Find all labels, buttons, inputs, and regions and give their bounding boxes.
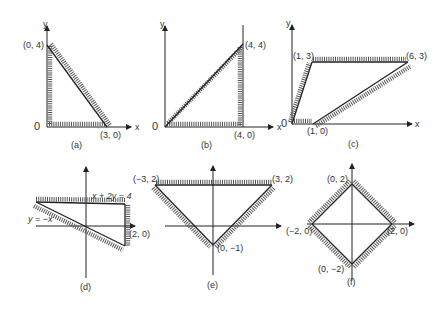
hatch-edge — [51, 44, 110, 125]
panel-a: y x 0 (0, 4) (3, 0) (a) — [23, 19, 140, 150]
vertex-label: (−3, 2) — [133, 174, 159, 184]
line-label: y = −x — [27, 214, 53, 224]
x-axis-label: x — [415, 119, 420, 129]
panel-e: (−3, 2) (3, 2) (0, −1) (e) — [133, 166, 293, 290]
hatch-edge — [316, 66, 411, 126]
boundary-line-y-eq-neg-x — [36, 202, 125, 246]
hatch-edge — [34, 206, 123, 250]
hatch-edge — [309, 226, 350, 267]
hatch-edge — [354, 181, 395, 222]
y-axis-label: y — [43, 19, 48, 29]
hatch-edge — [290, 63, 309, 122]
panel-caption: (b) — [201, 140, 212, 150]
vertex-label: (0, 4) — [23, 40, 44, 50]
vertex-label: (0, −1) — [217, 243, 243, 253]
y-axis-label: y — [160, 19, 165, 29]
vertex-label: (0, −2) — [318, 264, 344, 274]
panel-c: y x 0 (1, 3) (6, 3) (1, 0) (c) — [281, 18, 427, 149]
origin-label: 0 — [34, 120, 40, 132]
panel-f: (0, 2) (−2, 0) (2, 0) (0, −2) (f) — [286, 164, 414, 287]
vertex-label: (1, 3) — [293, 51, 314, 61]
boundary-line — [165, 44, 243, 127]
vertex-label: (1, 0) — [307, 126, 328, 136]
hatch-edge — [309, 181, 350, 222]
panel-caption: (e) — [207, 280, 218, 290]
vertex-label: (3, 0) — [100, 130, 121, 140]
hatch-edge — [216, 188, 274, 247]
line-label: x + 2y = 4 — [91, 191, 132, 201]
boundary-line — [47, 45, 107, 127]
boundary-line — [213, 185, 272, 245]
x-axis-label: x — [135, 122, 140, 132]
vertex-label: (3, 2) — [272, 174, 293, 184]
panel-caption: (f) — [347, 277, 356, 287]
boundary-line — [313, 62, 408, 124]
vertex-label: (2, 0) — [129, 229, 150, 239]
vertex-label: (0, 2) — [327, 174, 348, 184]
boundary-line-x-plus-2y-eq-4 — [36, 202, 125, 204]
panel-caption: (a) — [71, 140, 82, 150]
vertex-label: (2, 0) — [387, 226, 408, 236]
vertex-label: (4, 0) — [234, 130, 255, 140]
vertex-label: (4, 4) — [245, 40, 266, 50]
vertex-label: (−2, 0) — [286, 226, 312, 236]
origin-label: 0 — [152, 120, 158, 132]
y-axis-label: y — [286, 18, 291, 28]
boundary-line — [155, 185, 213, 245]
hatch-edge — [153, 188, 210, 247]
panel-b: y x 0 (4, 4) (4, 0) (b) — [152, 19, 282, 150]
vertex-label: (6, 3) — [406, 51, 427, 61]
panel-d: x + 2y = 4 y = −x (2, 0) (d) — [27, 167, 150, 292]
panel-caption: (d) — [80, 282, 91, 292]
panel-caption: (c) — [348, 139, 359, 149]
regions-diagram: y x 0 (0, 4) (3, 0) (a) y x 0 (4, 4) (4,… — [0, 0, 448, 312]
origin-label: 0 — [281, 117, 287, 129]
boundary-line — [292, 62, 312, 124]
